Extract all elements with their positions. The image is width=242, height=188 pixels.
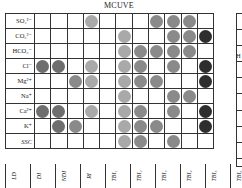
circle-marker-icon [69,75,82,88]
circle-marker-icon [183,90,196,103]
circle-marker-icon [85,60,98,73]
heatmap-cell [181,119,197,134]
heatmap-cell [165,14,181,29]
heatmap-cell [51,44,67,59]
second-panel-partial [236,13,242,167]
row-label: SO₄²⁻ [6,14,35,29]
circle-marker-icon [150,45,163,58]
circle-marker-icon [167,90,180,103]
row-label: Mg²⁺ [6,74,35,89]
heatmap-row: Na⁺ [6,89,214,104]
heatmap-cell [67,134,83,149]
circle-marker-icon [183,45,196,58]
heatmap-cell [149,74,165,89]
row-label: CO₃²⁻ [6,29,35,44]
heatmap-cell [181,14,197,29]
heatmap-cell [51,119,67,134]
heatmap-cell [67,14,83,29]
circle-marker-icon [134,105,147,118]
circle-marker-icon [36,60,49,73]
heatmap-row: Ca²⁺ [6,104,214,119]
heatmap-cell [67,44,83,59]
heatmap-cell [116,119,132,134]
row-label: Ca²⁺ [6,104,35,119]
row-label: HCO₃⁻ [6,44,35,59]
heatmap-cell [35,14,51,29]
circle-marker-icon [167,105,180,118]
heatmap-cell [83,59,99,74]
heatmap-cell [83,119,99,134]
heatmap-cell [149,44,165,59]
heatmap-cell [132,44,148,59]
heatmap-grid: SO₄²⁻CO₃²⁻HCO₃⁻Cl⁻Mg²⁺Na⁺Ca²⁺K⁺SSC [5,13,214,149]
heatmap-cell [100,89,116,104]
heatmap-cell [197,29,213,44]
heatmap-cell [100,134,116,149]
circle-marker-icon [167,15,180,28]
heatmap-cell [67,104,83,119]
heatmap-cell [116,14,132,29]
heatmap-cell [181,134,197,149]
heatmap-cell [83,104,99,119]
circle-marker-icon [118,60,131,73]
circle-marker-icon [134,75,147,88]
heatmap-cell [100,44,116,59]
column-label: LD [6,164,31,188]
column-label: TBI₂ [131,164,156,188]
heatmap-cell [165,29,181,44]
heatmap-cell [149,14,165,29]
circle-marker-icon [167,135,180,148]
heatmap-cell [51,89,67,104]
heatmap-cell [165,119,181,134]
circle-marker-icon [134,45,147,58]
heatmap-cell [83,14,99,29]
heatmap-cell [165,74,181,89]
heatmap-cell [67,29,83,44]
heatmap-cell [132,59,148,74]
heatmap-row: SO₄²⁻ [6,14,214,29]
heatmap-row: Mg²⁺ [6,74,214,89]
heatmap-cell [51,29,67,44]
circle-marker-icon [183,15,196,28]
heatmap-cell [197,119,213,134]
heatmap-cell [35,29,51,44]
circle-marker-icon [183,30,196,43]
heatmap-cell [149,134,165,149]
heatmap-row: CO₃²⁻ [6,29,214,44]
heatmap-cell [132,119,148,134]
circle-marker-icon [167,60,180,73]
heatmap-cell [149,29,165,44]
heatmap-cell [100,119,116,134]
heatmap-cell [100,59,116,74]
heatmap-cell [149,104,165,119]
heatmap-cell [35,59,51,74]
circle-marker-icon [134,135,147,148]
heatmap-cell [67,74,83,89]
column-label: TBI₅ [206,164,231,188]
second-panel-row-label: H [236,52,241,59]
circle-marker-icon [167,45,180,58]
heatmap-cell [132,134,148,149]
heatmap-cell [116,104,132,119]
heatmap-cell [197,59,213,74]
heatmap-cell [51,104,67,119]
circle-marker-icon [52,120,65,133]
column-label: DI [31,164,56,188]
row-label: SSC [6,134,35,149]
heatmap-cell [165,44,181,59]
circle-marker-icon [199,30,212,43]
heatmap-cell [116,59,132,74]
circle-marker-icon [85,105,98,118]
circle-marker-icon [36,105,49,118]
chart-title: MCUVE [0,1,242,10]
heatmap-cell [100,74,116,89]
heatmap-cell [132,14,148,29]
heatmap-cell [165,134,181,149]
heatmap-cell [51,14,67,29]
heatmap-cell [132,104,148,119]
heatmap-cell [67,119,83,134]
heatmap-cell [35,134,51,149]
circle-marker-icon [69,120,82,133]
heatmap-cell [51,59,67,74]
heatmap-cell [132,74,148,89]
